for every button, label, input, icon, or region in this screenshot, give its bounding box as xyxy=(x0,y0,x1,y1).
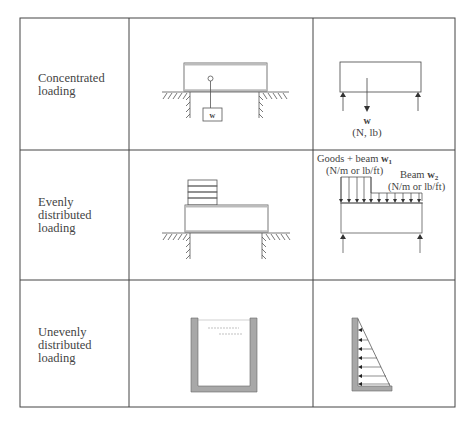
load1-units: (N/m or lb/ft) xyxy=(326,165,384,177)
label-line: loading xyxy=(38,85,105,98)
concentrated-fbd xyxy=(340,62,421,112)
load-symbol-w: w xyxy=(363,115,371,126)
support-arrow-left-icon xyxy=(340,92,346,97)
arrow-down-icon xyxy=(364,106,370,112)
load-units: (N, lb) xyxy=(352,126,382,139)
row-label-evenly-distributed: Evenly distributed loading xyxy=(38,196,91,235)
ground-hatch-right xyxy=(262,234,290,259)
weight-box-label: w xyxy=(210,111,216,120)
label-line: loading xyxy=(38,222,91,235)
support-arrow-left-icon xyxy=(340,234,346,239)
ground-hatch-right xyxy=(259,93,287,118)
hydrostatic-pressure-fbd xyxy=(352,318,392,391)
evenly-distributed-beam-diagram xyxy=(162,180,290,259)
ground-hatch-left xyxy=(163,234,190,259)
row-label-unevenly-distributed: Unevenly distributed loading xyxy=(38,326,91,365)
support-arrow-right-icon xyxy=(415,92,421,97)
support-arrow-right-icon xyxy=(417,234,423,239)
label-line: loading xyxy=(38,352,91,365)
stacked-goods xyxy=(188,180,217,205)
concentrated-beam-diagram xyxy=(162,63,289,121)
tank-diagram xyxy=(191,318,257,392)
pressure-arrows xyxy=(358,328,362,386)
load2-units: (N/m or lb/ft) xyxy=(388,181,446,193)
row-label-concentrated: Concentrated loading xyxy=(38,72,105,98)
ground-hatch-left xyxy=(163,93,190,118)
